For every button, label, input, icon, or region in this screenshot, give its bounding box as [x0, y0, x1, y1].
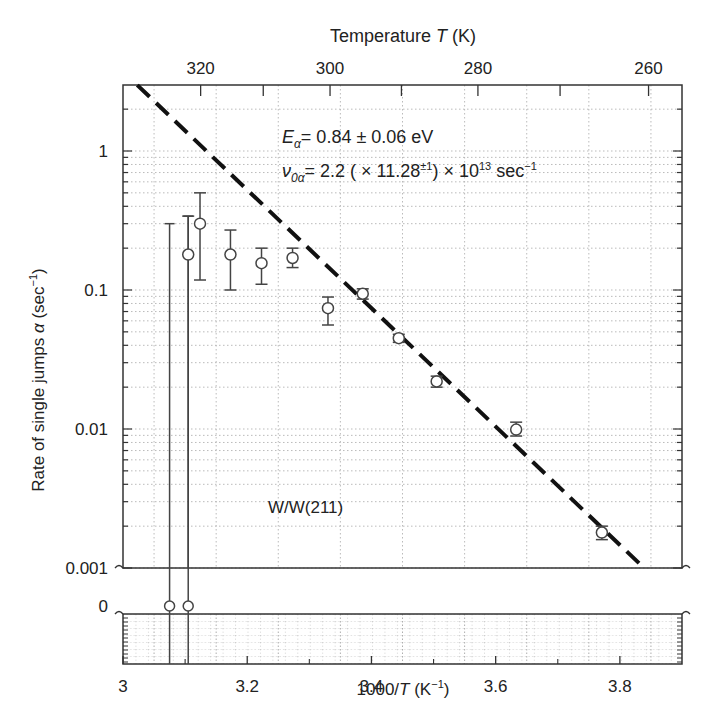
axis-ticks: 33.23.43.63.810.10.010.001320300280260	[65, 59, 682, 696]
top-tick-label: 260	[634, 59, 662, 78]
y-axis-title: Rate of single jumps α (sec−1)	[27, 268, 48, 492]
annotation-prefactor: ν0α= 2.2 ( × 11.28±1) × 1013 sec−1	[282, 160, 537, 185]
data-point	[393, 333, 405, 344]
data-point	[596, 526, 608, 539]
y-tick-label: 0.001	[65, 559, 108, 578]
data-point	[357, 288, 369, 299]
x-axis-title: 1000/T (K−1)	[357, 678, 450, 699]
top-axis-title: Temperature T (K)	[330, 26, 476, 46]
data-point	[182, 216, 194, 568]
data-points	[165, 193, 608, 664]
top-tick-label: 280	[464, 59, 492, 78]
top-tick-label: 320	[186, 59, 214, 78]
top-tick-label: 300	[316, 59, 344, 78]
zero-tick-label: 0	[99, 597, 108, 616]
x-tick-label: 3.6	[484, 677, 508, 696]
data-point	[287, 248, 299, 267]
x-tick-label: 3.8	[608, 677, 632, 696]
annotation-activation-energy: Eα= 0.84 ± 0.06 eV	[282, 127, 433, 151]
sample-label: W/W(211)	[268, 498, 343, 517]
y-tick-label: 0.1	[84, 281, 108, 300]
data-point	[510, 422, 522, 436]
zero-panel-grid	[123, 614, 682, 664]
data-point	[256, 248, 268, 284]
x-tick-label: 3.2	[235, 677, 259, 696]
data-point	[165, 224, 175, 664]
arrhenius-chart: 33.23.43.63.810.10.010.001320300280260 T…	[0, 0, 713, 707]
data-point	[431, 376, 443, 387]
y-tick-label: 0.01	[75, 420, 108, 439]
y-tick-label: 1	[99, 142, 108, 161]
x-tick-label: 3	[118, 677, 127, 696]
data-point	[224, 230, 236, 290]
